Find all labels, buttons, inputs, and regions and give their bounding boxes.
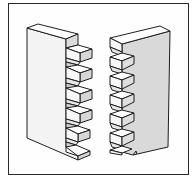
left-board (27, 24, 92, 160)
right-board (110, 26, 170, 155)
finger-joint-illustration (0, 0, 196, 180)
left-board-pins (66, 45, 92, 160)
right-board-pins (110, 47, 134, 155)
